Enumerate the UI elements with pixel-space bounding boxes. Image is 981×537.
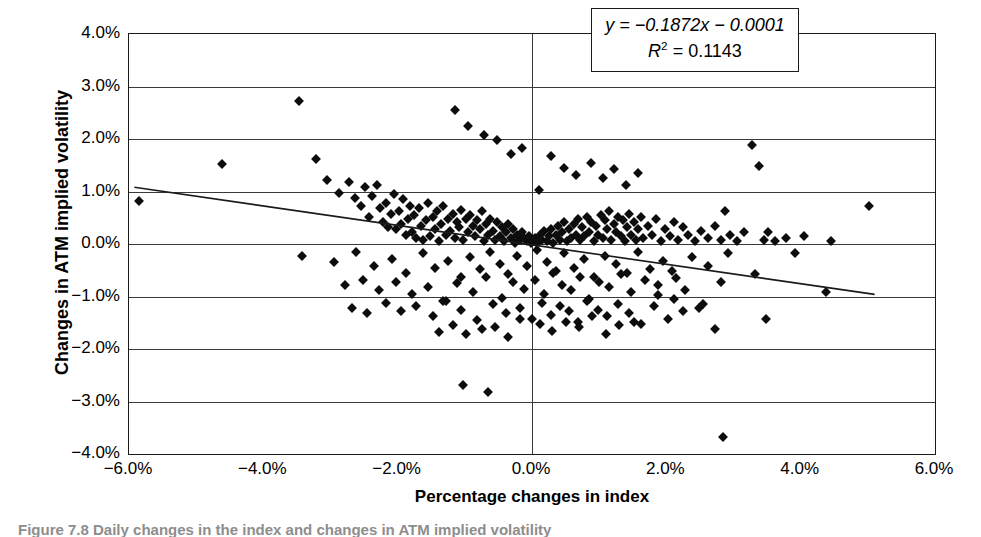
scatter-point <box>475 264 485 274</box>
scatter-point <box>522 261 532 271</box>
y-tick-label: −1.0% <box>0 287 120 304</box>
scatter-point <box>492 135 502 145</box>
x-axis-title: Percentage changes in index <box>128 487 936 507</box>
scatter-point <box>485 247 495 257</box>
scatter-point <box>463 121 473 131</box>
scatter-point <box>723 248 733 258</box>
scatter-point <box>754 161 764 171</box>
x-tick-label: −2.0% <box>337 459 457 479</box>
scatter-point <box>601 329 611 339</box>
y-tick-label: 3.0% <box>0 77 120 94</box>
scatter-point <box>517 143 527 153</box>
scatter-point <box>396 306 406 316</box>
x-tick-label: 0.0% <box>471 459 591 479</box>
scatter-point <box>598 173 608 183</box>
scatter-point <box>347 303 357 313</box>
scatter-point <box>483 387 493 397</box>
scatter-point <box>542 257 552 267</box>
scatter-point <box>457 305 467 315</box>
plot-area <box>128 33 936 455</box>
scatter-point <box>322 175 332 185</box>
scatter-point <box>504 332 514 342</box>
scatter-point <box>356 201 366 211</box>
scatter-point <box>450 105 460 115</box>
scatter-point <box>703 233 713 243</box>
scatter-point <box>547 326 557 336</box>
scatter-point <box>621 180 631 190</box>
scatter-point <box>508 277 518 287</box>
scatter-point <box>423 198 433 208</box>
scatter-point <box>472 315 482 325</box>
scatter-point <box>477 324 487 334</box>
scatter-point <box>535 319 545 329</box>
scatter-point <box>653 280 663 290</box>
scatter-point <box>716 277 726 287</box>
scatter-point <box>653 290 663 300</box>
scatter-point <box>490 322 500 332</box>
scatter-point <box>448 320 458 330</box>
scatter-point <box>515 314 525 324</box>
scatter-point <box>481 272 491 282</box>
scatter-point <box>519 284 529 294</box>
x-tick-label: 2.0% <box>605 459 725 479</box>
scatter-point <box>781 233 791 243</box>
scatter-point <box>750 269 760 279</box>
scatter-point <box>534 185 544 195</box>
scatter-point <box>365 212 375 222</box>
scatter-point <box>602 311 612 321</box>
scatter-point <box>459 380 469 390</box>
scatter-point <box>718 432 728 442</box>
scatter-point <box>372 180 382 190</box>
scatter-point <box>663 314 673 324</box>
scatter-point <box>739 227 749 237</box>
scatter-point <box>394 206 404 216</box>
scatter-point <box>344 177 354 187</box>
scatter-point <box>696 226 706 236</box>
x-axis-tick-zero <box>532 445 533 454</box>
scatter-point <box>412 301 422 311</box>
scatter-point <box>559 248 569 258</box>
scatter-point <box>369 261 379 271</box>
scatter-point <box>374 285 384 295</box>
scatter-point <box>362 308 372 318</box>
scatter-point <box>465 252 475 262</box>
scatter-point <box>430 263 440 273</box>
x-tick-label: −4.0% <box>202 459 322 479</box>
scatter-point <box>506 149 516 159</box>
scatter-point <box>747 140 757 150</box>
scatter-point <box>502 308 512 318</box>
scatter-point <box>497 293 507 303</box>
x-tick-label: 6.0% <box>874 459 981 479</box>
y-axis-tick-labels: 4.0%3.0%2.0%1.0%0.0%−1.0%−2.0%−3.0%−4.0% <box>0 33 120 455</box>
scatter-point <box>710 221 720 231</box>
scatter-point <box>546 151 556 161</box>
scatter-point <box>495 259 505 269</box>
y-tick-label: 0.0% <box>0 234 120 251</box>
scatter-point <box>311 154 321 164</box>
x-axis-tick-labels: −6.0%−4.0%−2.0%0.0%2.0%4.0%6.0% <box>128 459 936 483</box>
scatter-point <box>423 282 433 292</box>
scatter-point <box>703 261 713 271</box>
scatter-point <box>294 96 304 106</box>
x-tick-label: 4.0% <box>740 459 860 479</box>
scatter-point <box>575 272 585 282</box>
scatter-point <box>799 231 809 241</box>
scatter-point <box>334 188 344 198</box>
scatter-point <box>381 298 391 308</box>
scatter-point <box>710 324 720 334</box>
scatter-point <box>643 221 653 231</box>
scatter-point <box>401 268 411 278</box>
scatter-point <box>604 282 614 292</box>
scatter-point <box>680 285 690 295</box>
scatter-point <box>428 311 438 321</box>
scatter-point <box>217 159 227 169</box>
scatter-point <box>658 256 668 266</box>
scatter-point <box>633 247 643 257</box>
figure-caption: Figure 7.8 Daily changes in the index an… <box>18 521 958 537</box>
scatter-point <box>387 254 397 264</box>
scatter-point <box>512 251 522 261</box>
scatter-point <box>864 201 874 211</box>
scatter-point <box>611 259 621 269</box>
scatter-point <box>761 314 771 324</box>
scatter-point <box>532 245 542 255</box>
